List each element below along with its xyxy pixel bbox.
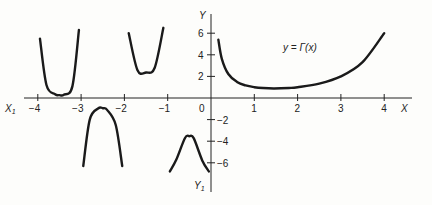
svg-text:−1: −1 xyxy=(159,103,171,114)
gamma-branch xyxy=(129,28,164,74)
gamma-branch xyxy=(83,107,122,166)
gamma-branch xyxy=(170,136,209,172)
svg-text:−2: −2 xyxy=(115,103,127,114)
svg-text:4: 4 xyxy=(381,103,387,114)
svg-text:3: 3 xyxy=(338,103,344,114)
svg-text:2: 2 xyxy=(295,103,301,114)
x-ticks: −4−3−2−101234 xyxy=(29,94,387,114)
y-neg-axis-label: Y1 xyxy=(194,180,205,192)
gamma-function-plot: −4−3−2−101234 642−2−4−6 Y X X1 Y1 y = Γ(… xyxy=(0,0,432,205)
x-axis-label: X xyxy=(400,103,408,114)
svg-text:6: 6 xyxy=(198,28,204,39)
svg-text:−2: −2 xyxy=(217,115,229,126)
function-label: y = Γ(x) xyxy=(282,42,317,53)
gamma-curves xyxy=(40,28,384,172)
svg-text:0: 0 xyxy=(199,103,205,114)
svg-text:−3: −3 xyxy=(72,103,84,114)
svg-text:−4: −4 xyxy=(29,103,41,114)
x-neg-axis-label: X1 xyxy=(4,103,16,115)
svg-text:4: 4 xyxy=(198,50,204,61)
gamma-branch xyxy=(40,30,79,96)
svg-text:−6: −6 xyxy=(217,158,229,169)
y-axis-label: Y xyxy=(199,10,207,21)
svg-text:2: 2 xyxy=(198,71,204,82)
svg-text:1: 1 xyxy=(251,103,257,114)
svg-text:−4: −4 xyxy=(217,136,229,147)
